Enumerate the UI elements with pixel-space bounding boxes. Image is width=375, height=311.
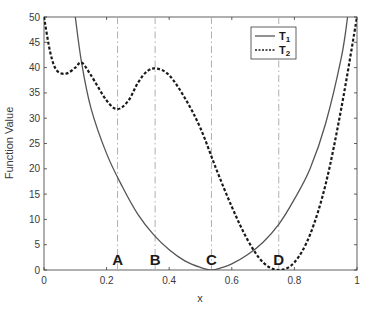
y-tick-label: 25	[29, 138, 41, 149]
marker-label-b: B	[150, 251, 161, 268]
y-tick-label: 15	[29, 189, 41, 200]
y-axis-label: Function Value	[3, 107, 15, 180]
series-t2	[44, 17, 357, 270]
x-tick-label: 0.6	[225, 275, 239, 286]
x-tick-label: 1	[354, 275, 360, 286]
series-lines	[44, 17, 357, 270]
y-tick-label: 10	[29, 214, 41, 225]
y-tick-label: 30	[29, 113, 41, 124]
x-axis-label: x	[197, 292, 203, 304]
y-tick-label: 0	[34, 265, 40, 276]
x-tick-label: 0.4	[162, 275, 176, 286]
y-tick-label: 35	[29, 87, 41, 98]
x-tick-label: 0.2	[100, 275, 114, 286]
y-tick-label: 45	[29, 37, 41, 48]
legend: T1T2	[251, 27, 296, 59]
y-tick-label: 50	[29, 12, 41, 23]
y-tick-label: 5	[34, 239, 40, 250]
marker-label-d: D	[273, 251, 284, 268]
plot-axes: 0510152025303540455000.20.40.60.81	[29, 12, 360, 287]
marker-label-a: A	[112, 251, 123, 268]
x-tick-label: 0.8	[287, 275, 301, 286]
marker-label-c: C	[206, 251, 217, 268]
y-tick-label: 20	[29, 163, 41, 174]
x-tick-label: 0	[41, 275, 47, 286]
chart: 0510152025303540455000.20.40.60.81 ABCD …	[0, 0, 375, 311]
plot-frame	[44, 17, 357, 270]
y-tick-label: 40	[29, 62, 41, 73]
marker-labels: ABCD	[112, 251, 284, 268]
